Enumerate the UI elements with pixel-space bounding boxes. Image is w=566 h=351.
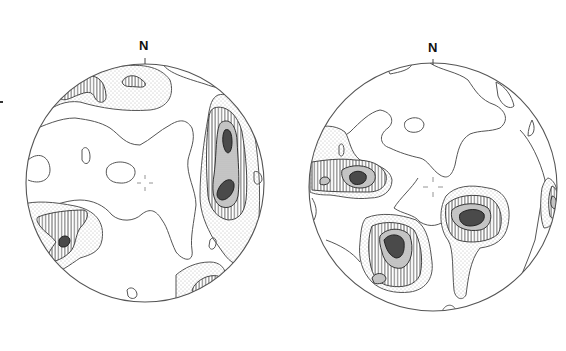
stereonet-figure xyxy=(0,0,566,351)
contour-ne-rim xyxy=(162,62,228,90)
contour-west-max-r xyxy=(350,171,367,184)
contour-south-oval xyxy=(127,288,137,299)
contour-west-lobe xyxy=(28,155,50,181)
stereonet-right xyxy=(309,59,559,312)
contour-nw-max xyxy=(63,81,74,88)
center-cross-left xyxy=(137,175,153,191)
contour-nw-band xyxy=(45,65,172,112)
contour-small-oval xyxy=(82,148,90,164)
center-cross-right xyxy=(423,177,443,197)
contour-sw-rim-r xyxy=(326,240,360,262)
contour-se-max-r xyxy=(459,210,484,227)
contour-west-small-r xyxy=(320,177,330,185)
contour-center-oval xyxy=(106,162,135,183)
contour-east-band-r xyxy=(510,130,545,300)
contour-center-oval-r xyxy=(404,118,424,133)
contour-sw-max xyxy=(59,236,70,247)
stereonet-left xyxy=(20,58,264,305)
contour-south-small-r xyxy=(372,274,386,284)
contour-e-rim-lobe xyxy=(528,120,534,136)
